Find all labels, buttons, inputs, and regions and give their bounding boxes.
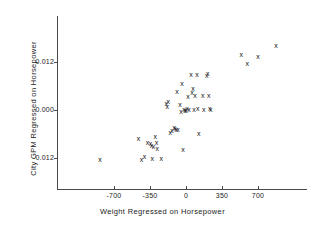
data-point: x [173,125,177,132]
data-point: x [155,139,159,146]
x-tick-label: -350 [143,192,158,200]
data-point: x [183,107,187,114]
data-point: x [150,142,154,149]
data-point: x [146,139,150,146]
y-tick-mark [54,110,58,111]
data-point: x [149,140,153,147]
data-point: x [209,106,213,113]
data-point: x [186,93,190,100]
data-point: x [165,103,169,110]
data-point: x [180,80,184,87]
x-tick-mark [258,186,259,190]
data-point: x [207,92,211,99]
data-point: x [181,146,185,153]
data-point: x [175,88,179,95]
data-point: x [190,89,194,96]
x-tick-label: 0 [184,192,188,200]
data-point: x [172,124,176,131]
data-point: x [160,155,164,162]
data-point: x [193,92,197,99]
data-point: x [174,126,178,133]
data-point: x [197,130,201,137]
data-point: x [187,106,191,113]
data-point: x [184,107,188,114]
data-point: x [205,72,209,79]
data-point: x [195,71,199,78]
x-tick-mark [114,186,115,190]
data-point: x [154,133,158,140]
x-tick-mark [150,186,151,190]
y-tick-mark [54,158,58,159]
data-point: x [240,51,244,58]
data-point: x [143,153,147,160]
data-point: x [98,156,102,163]
data-point: x [137,135,141,142]
data-point: x [178,101,182,108]
x-tick-label: 700 [252,192,264,200]
data-point: x [208,105,212,112]
x-tick-label: 350 [216,192,228,200]
data-point: x [156,145,160,152]
data-point: x [192,106,196,113]
data-point: x [170,127,174,134]
data-point: x [165,100,169,107]
data-point: x [166,98,170,105]
data-point: x [256,53,260,60]
y-tick-mark [54,62,58,63]
y-tick-label: 0.000 [35,106,54,114]
data-point: x [179,108,183,115]
data-point: x [151,155,155,162]
data-point: x [191,85,195,92]
y-axis-title: City GPM Regressed on Horsepower [29,14,38,204]
data-point: x [201,92,205,99]
data-point: x [246,60,250,67]
scatter-plot: -700-3500350700 0.0120.000-0.012 xxxxxxx… [0,0,325,229]
data-point: x [189,71,193,78]
x-tick-mark [222,186,223,190]
data-points-layer: xxxxxxxxxxxxxxxxxxxxxxxxxxxxxxxxxxxxxxxx… [0,0,325,229]
data-point: x [182,106,186,113]
x-axis-line [58,189,307,190]
x-axis-title: Weight Regressed on Horsepower [0,207,325,216]
data-point: x [152,143,156,150]
data-point: x [185,105,189,112]
data-point: x [274,42,278,49]
data-point: x [196,105,200,112]
data-point: x [176,126,180,133]
data-point: x [168,129,172,136]
y-tick-label: 0.012 [35,58,54,66]
data-point: x [140,156,144,163]
x-tick-mark [186,186,187,190]
y-axis-line [57,16,58,190]
x-tick-label: -700 [107,192,122,200]
data-point: x [202,106,206,113]
data-point: x [206,70,210,77]
